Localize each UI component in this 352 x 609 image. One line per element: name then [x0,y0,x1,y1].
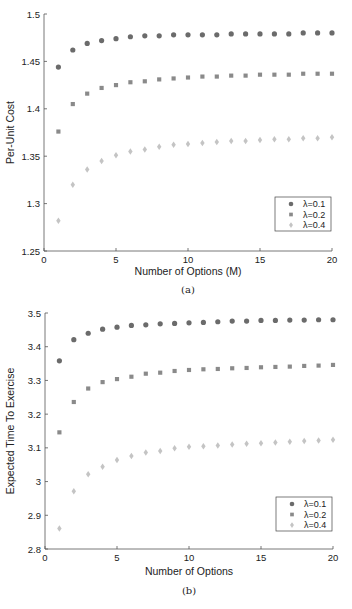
square-marker [71,102,75,106]
chart-a-svg: 1.251.31.351.41.451.505101520Number of O… [0,0,352,302]
chart-a: 1.251.31.351.41.451.505101520Number of O… [0,0,352,302]
diamond-marker [100,463,104,470]
circle-marker [99,38,104,43]
circle-marker [229,31,234,36]
square-marker [57,430,61,434]
circle-marker [143,322,148,327]
circle-marker [57,358,62,363]
square-marker [301,72,305,76]
square-marker [272,73,276,77]
circle-marker [315,30,320,35]
figure-caption: (a) [181,284,195,295]
square-marker [287,73,291,77]
x-axis-label: Number of Options (M) [135,265,242,277]
legend-entry: λ=0.4 [304,520,326,530]
diamond-marker [243,138,247,145]
circle-marker [287,317,292,322]
y-tick-label: 3.1 [28,442,41,453]
diamond-marker [115,457,119,464]
circle-marker [273,318,278,323]
chart-b: 2.82.933.13.23.33.43.505101520Number of … [0,302,352,609]
x-tick-label: 20 [327,254,338,265]
diamond-marker [129,453,133,460]
x-tick-label: 0 [42,552,47,563]
y-tick-label: 2.8 [28,544,41,555]
square-marker [115,377,119,381]
diamond-marker [157,143,161,150]
x-tick-label: 20 [328,552,339,563]
square-marker [316,72,320,76]
square-marker [215,74,219,78]
figure-caption: (b) [182,585,196,596]
circle-marker [71,337,76,342]
diamond-marker [315,135,319,142]
x-axis-label: Number of Options [145,565,233,577]
diamond-marker [316,437,320,444]
square-marker [86,386,90,390]
circle-marker [258,318,263,323]
diamond-marker [187,444,191,451]
diamond-marker [331,437,335,444]
diamond-marker [272,136,276,143]
square-marker [317,364,321,368]
square-marker [101,380,105,384]
circle-marker [142,33,147,38]
diamond-marker [128,148,132,155]
circle-marker [215,319,220,324]
square-marker [330,72,334,76]
x-tick-label: 5 [113,254,118,265]
circle-marker [86,331,91,336]
diamond-marker [56,217,60,224]
diamond-marker [201,443,205,450]
diamond-marker [57,525,61,532]
chart-b-svg: 2.82.933.13.23.33.43.505101520Number of … [0,302,352,609]
x-tick-label: 5 [114,552,119,563]
legend-entry: λ=0.1 [304,499,326,509]
x-tick-label: 0 [41,254,46,265]
square-marker [129,375,133,379]
x-tick-label: 10 [183,254,194,265]
circle-marker [185,32,190,37]
y-tick-label: 2.9 [28,510,41,521]
y-axis-label: Expected Time To Exercise [4,368,16,495]
circle-marker [243,31,248,36]
square-marker [186,75,190,79]
square-marker [200,74,204,78]
y-tick-label: 3.3 [28,375,41,386]
circle-marker [214,32,219,37]
diamond-marker [158,448,162,455]
diamond-marker [302,438,306,445]
square-marker [273,365,277,369]
circle-marker [301,30,306,35]
diamond-marker [172,445,176,452]
circle-marker [186,320,191,325]
diamond-marker [273,439,277,446]
circle-marker [272,31,277,36]
square-marker [72,400,76,404]
circle-marker [113,36,118,41]
square-marker [302,364,306,368]
diamond-marker [171,142,175,149]
square-marker [216,367,220,371]
y-tick-label: 1.25 [22,246,41,257]
y-tick-label: 1.4 [27,103,40,114]
circle-marker [129,323,134,328]
diamond-marker [200,140,204,147]
diamond-marker [258,137,262,144]
circle-marker [230,318,235,323]
legend: λ=0.1λ=0.2λ=0.4 [275,197,331,231]
y-tick-label: 3.2 [28,409,41,420]
diamond-marker [230,441,234,448]
square-marker [56,129,60,133]
diamond-marker [287,136,291,143]
circle-marker [85,41,90,46]
square-marker [244,74,248,78]
square-marker [114,83,118,87]
diamond-marker [99,158,103,165]
series-circle [57,317,336,363]
square-marker [173,369,177,373]
legend-entry: λ=0.1 [303,199,325,209]
diamond-marker [215,139,219,146]
legend-entry: λ=0.4 [303,220,325,230]
diamond-marker [288,439,292,446]
